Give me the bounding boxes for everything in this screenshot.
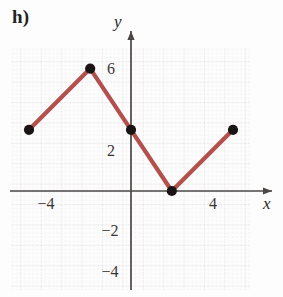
y-tick-label-neg2: −2 [96, 222, 124, 240]
x-axis-label: x [263, 194, 271, 214]
y-tick-label-neg4: −4 [96, 263, 124, 281]
figure-panel: h) [0, 0, 283, 297]
x-tick-label-neg4: −4 [31, 195, 61, 213]
coordinate-plot [0, 0, 283, 297]
x-tick-label-4: 4 [202, 195, 224, 213]
data-point-marker [85, 64, 95, 74]
y-axis-arrow [127, 31, 134, 40]
data-point-marker [24, 125, 34, 135]
data-point-marker [167, 186, 177, 196]
data-point-marker [228, 125, 238, 135]
y-axis-label: y [114, 12, 122, 32]
y-tick-label-6: 6 [100, 60, 122, 78]
data-point-marker [126, 125, 136, 135]
y-tick-label-2: 2 [100, 142, 122, 160]
